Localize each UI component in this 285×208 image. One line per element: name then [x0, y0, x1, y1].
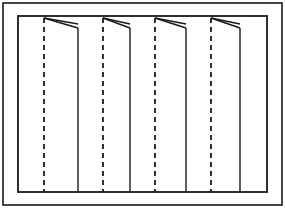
- line-drawing-canvas: [0, 0, 285, 208]
- figure-container: Vertical blind panel elevation diagram: [0, 0, 285, 208]
- inner-frame-border: [18, 16, 267, 192]
